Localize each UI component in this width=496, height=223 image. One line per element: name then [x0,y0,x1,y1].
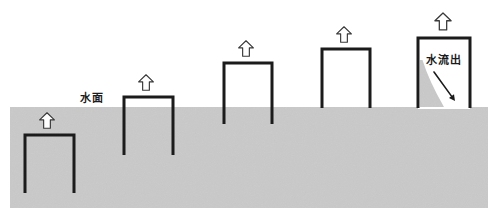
water-fill [10,107,488,208]
container-wall-outline [322,49,370,108]
water-lift-diagram: 水面 水流出 [0,0,496,223]
residual-water-shape [420,60,444,107]
water-surface-label: 水面 [80,91,104,105]
lift-arrow-up-icon-2 [139,75,154,90]
container-rising-fourth [322,49,370,108]
diagram-canvas: 水面 水流出 [0,0,496,223]
outflow-arrow-head [449,94,455,101]
residual-water-wedge [420,60,444,107]
lift-arrow-up-icon-3 [239,41,254,56]
outflow-arrow-shaft [434,72,451,96]
lift-arrow-up-icon-4 [337,27,352,42]
water-outflow-label: 水流出 [426,53,462,67]
water-body [10,107,488,208]
lift-arrow-up-icon-5 [435,13,451,30]
